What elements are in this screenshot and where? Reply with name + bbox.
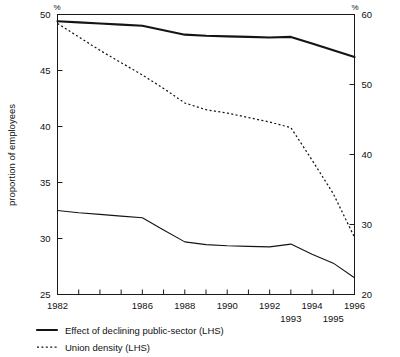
- right-tick-label-30: 30: [362, 219, 373, 230]
- right-tick-label-20: 20: [362, 289, 373, 300]
- plot-frame: [58, 15, 355, 295]
- right-tick-label-40: 40: [362, 149, 373, 160]
- right-axis-unit-label: %: [351, 3, 358, 12]
- x-tick-label-1995: 1995: [323, 313, 344, 324]
- x-tick-label-1993: 1993: [280, 313, 301, 324]
- chart-legend: Effect of declining public-sector (LHS)U…: [37, 325, 224, 353]
- left-tick-label-50: 50: [40, 9, 51, 20]
- left-tick-label-30: 30: [40, 233, 51, 244]
- series-line-effect-of-declining-public-sector-lhs: [58, 21, 355, 57]
- left-tick-label-25: 25: [40, 289, 51, 300]
- legend-label-0: Effect of declining public-sector (LHS): [65, 325, 224, 336]
- left-tick-label-35: 35: [40, 177, 51, 188]
- y-axis-title: proportion of employees: [6, 104, 17, 206]
- series-line-unlabelled-lower-series: [58, 211, 355, 278]
- line-chart: % % 253035404550 2030405060 198219861988…: [0, 0, 400, 357]
- chart-figure: % % 253035404550 2030405060 198219861988…: [0, 0, 400, 357]
- x-tick-label-1996: 1996: [344, 300, 365, 311]
- right-tick-label-50: 50: [362, 79, 373, 90]
- x-tick-label-1990: 1990: [217, 300, 238, 311]
- x-tick-label-1994: 1994: [302, 300, 323, 311]
- legend-label-1: Union density (LHS): [65, 342, 150, 353]
- right-axis-ticks: 2030405060: [350, 9, 373, 300]
- left-axis-unit-label: %: [53, 3, 60, 12]
- left-axis-ticks: 253035404550: [40, 9, 63, 300]
- x-tick-label-1986: 1986: [132, 300, 153, 311]
- x-tick-label-1982: 1982: [47, 300, 68, 311]
- left-tick-label-45: 45: [40, 65, 51, 76]
- data-series-group: [58, 21, 355, 277]
- x-tick-label-1992: 1992: [259, 300, 280, 311]
- series-line-union-density-lhs: [58, 23, 355, 237]
- bottom-axis-ticks: [58, 290, 355, 295]
- right-tick-label-60: 60: [362, 9, 373, 20]
- x-axis-tick-labels: 198219861988199019921994199619931995: [47, 300, 365, 324]
- x-tick-label-1988: 1988: [174, 300, 195, 311]
- left-tick-label-40: 40: [40, 121, 51, 132]
